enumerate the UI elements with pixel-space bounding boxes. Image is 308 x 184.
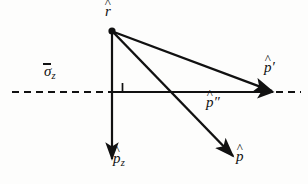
circumflex-accent-icon: ^ <box>265 52 271 65</box>
right-angle-marker <box>113 83 123 92</box>
overbar-accent-icon <box>43 63 51 64</box>
vector-diagram: ^ r σ z ^ p ′ ^ p ″ ^ p ^ p z <box>0 0 308 184</box>
circumflex-accent-icon: ^ <box>237 141 243 154</box>
diagram-canvas <box>0 0 308 184</box>
apex-point <box>108 27 115 34</box>
label-r-hat: ^ r <box>105 4 111 19</box>
vector-p-prime <box>113 32 273 92</box>
label-p-prime: ^ p ′ <box>264 60 275 75</box>
circumflex-accent-icon: ^ <box>207 87 213 100</box>
label-sigma-z-axis: σ z <box>44 64 56 82</box>
circumflex-accent-icon: ^ <box>105 0 111 9</box>
circumflex-accent-icon: ^ <box>114 143 120 156</box>
label-p: ^ p <box>236 149 244 164</box>
label-p-z: ^ p z <box>113 151 125 169</box>
label-p-double-prime: ^ p ″ <box>206 95 220 110</box>
